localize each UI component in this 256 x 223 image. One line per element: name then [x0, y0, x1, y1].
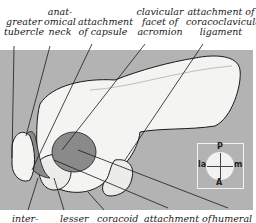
label-humeral: humeral [212, 214, 252, 223]
label-lesser: lesser [60, 214, 89, 223]
clavicular-facet-shade [52, 132, 96, 172]
label-inter: inter- [12, 214, 38, 223]
compass-anterior: A [216, 178, 222, 187]
orientation-compass: P A la m [197, 143, 244, 189]
compass-medial: m [234, 160, 242, 169]
label-coracoid: coracoid [97, 214, 138, 223]
compass-horizontal-arrow [207, 166, 233, 167]
scapula-humerus-illustration [0, 0, 256, 223]
label-attachment-of: attachment of [144, 214, 211, 223]
compass-lateral: la [198, 160, 206, 169]
greater-tubercle-bone [12, 132, 35, 181]
compass-posterior: P [217, 142, 223, 151]
